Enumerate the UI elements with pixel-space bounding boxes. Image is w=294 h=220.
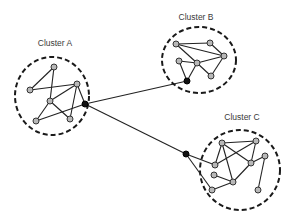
node xyxy=(47,98,53,104)
node xyxy=(176,58,182,64)
cluster-a: Cluster A xyxy=(15,38,89,135)
node xyxy=(230,179,236,185)
node xyxy=(219,140,225,146)
node xyxy=(74,81,80,87)
edge xyxy=(176,43,210,44)
node xyxy=(67,116,73,122)
edge xyxy=(30,67,54,90)
node xyxy=(221,53,227,59)
node xyxy=(253,138,259,144)
cluster-label: Cluster C xyxy=(224,112,259,122)
node xyxy=(27,87,33,93)
node xyxy=(194,60,200,66)
cluster-boundary xyxy=(162,27,236,93)
cluster-c: Cluster C xyxy=(183,112,280,210)
cluster-b: Cluster B xyxy=(162,12,236,93)
network-diagram: Cluster ACluster BCluster C xyxy=(0,0,294,220)
node xyxy=(209,187,215,193)
edge xyxy=(233,163,251,182)
edge xyxy=(50,67,54,101)
cluster-label: Cluster B xyxy=(179,12,214,22)
clusters: Cluster ACluster BCluster C xyxy=(15,12,280,210)
hub-node xyxy=(183,151,189,157)
node xyxy=(207,40,213,46)
edge xyxy=(36,104,85,121)
edge xyxy=(258,156,265,190)
node xyxy=(208,73,214,79)
inter-cluster-links xyxy=(85,81,187,154)
node xyxy=(212,162,218,168)
edge xyxy=(30,84,77,90)
node xyxy=(248,160,254,166)
edge xyxy=(222,141,256,143)
bridge-a-c xyxy=(85,104,186,154)
node xyxy=(51,64,57,70)
node xyxy=(33,118,39,124)
node xyxy=(262,153,268,159)
cluster-label: Cluster A xyxy=(38,38,73,48)
hub-node xyxy=(184,78,190,84)
node xyxy=(255,187,261,193)
hub-node xyxy=(82,101,88,107)
node xyxy=(211,172,217,178)
bridge-a-b xyxy=(85,81,187,104)
node xyxy=(173,41,179,47)
edge xyxy=(70,84,77,119)
